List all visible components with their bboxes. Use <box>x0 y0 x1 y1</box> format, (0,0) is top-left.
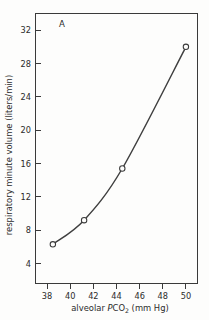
y-tick-label: 28 <box>21 59 31 69</box>
axis-frame-path <box>36 14 198 284</box>
panel-label: A <box>59 19 65 29</box>
x-axis-title-species: CO <box>113 303 126 313</box>
data-line-respiratory-minute-volume <box>53 47 186 245</box>
y-tick-label: 4 <box>26 259 31 269</box>
y-tick-label: 32 <box>21 25 31 35</box>
y-tick-label: 8 <box>26 225 31 235</box>
y-tick-label: 20 <box>21 125 31 135</box>
x-axis-ticks <box>47 284 186 290</box>
data-series-layer <box>53 47 186 245</box>
x-tick-label: 42 <box>88 291 98 301</box>
plot-frame <box>36 14 198 284</box>
y-axis-tick-labels: 48121620242832 <box>21 25 31 268</box>
x-tick-label: 50 <box>181 291 191 301</box>
x-tick-label: 40 <box>65 291 75 301</box>
y-tick-label: 12 <box>21 192 31 202</box>
y-tick-label: 24 <box>21 92 31 102</box>
x-axis-title-units: (mm Hg) <box>129 303 169 313</box>
y-tick-label: 16 <box>21 159 31 169</box>
x-tick-label: 48 <box>158 291 168 301</box>
figure-panel-a: 48121620242832 38404244464850 A respirat… <box>0 0 209 320</box>
data-point-marker <box>183 44 188 49</box>
x-tick-label: 38 <box>42 291 52 301</box>
x-tick-label: 46 <box>134 291 144 301</box>
y-axis-title: respiratory minute volume (liters/min) <box>4 75 14 235</box>
data-point-marker <box>50 242 55 247</box>
data-point-marker <box>120 166 125 171</box>
x-tick-label: 44 <box>111 291 121 301</box>
x-axis-title: alveolar PCO2 (mm Hg) <box>71 303 169 314</box>
x-axis-title-lead: alveolar <box>71 303 107 313</box>
data-marker-layer <box>50 44 188 247</box>
x-axis-tick-labels: 38404244464850 <box>42 291 191 301</box>
chart-canvas: 48121620242832 38404244464850 A respirat… <box>0 0 209 320</box>
data-point-marker <box>81 217 86 222</box>
y-axis-ticks <box>36 30 42 263</box>
